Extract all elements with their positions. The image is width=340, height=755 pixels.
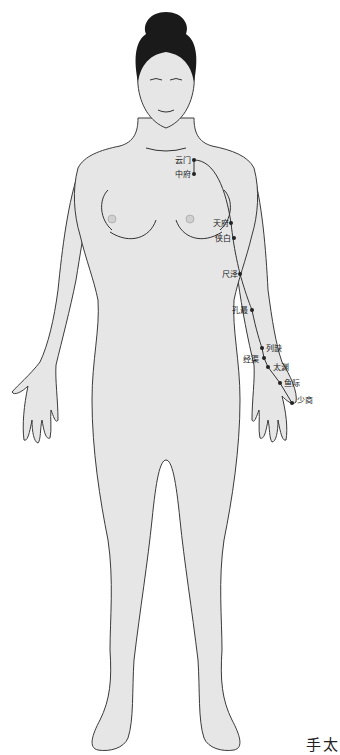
acupoint-dot	[192, 172, 196, 176]
acupoint-label: 尺泽	[222, 270, 238, 279]
acupoint-label: 中府	[175, 170, 191, 179]
acupoint-label: 经渠	[243, 355, 259, 364]
acupoint-dot	[229, 221, 233, 225]
acupoint-dot	[260, 346, 264, 350]
meridian-caption: 手太	[306, 733, 340, 754]
acupoint-dot	[192, 158, 196, 162]
acupoint-label: 天府	[213, 219, 229, 228]
acupoint-dot	[238, 272, 242, 276]
acupoint-dot	[250, 308, 254, 312]
acupoint-dot	[262, 356, 266, 360]
acupoint-dot	[290, 401, 294, 405]
acupoint-label: 列缺	[266, 344, 282, 353]
acupoint-label: 太渊	[273, 363, 289, 372]
acupoint-label: 云门	[175, 156, 191, 165]
acupoint-label: 鱼际	[284, 379, 300, 388]
acupoint-dot	[266, 365, 270, 369]
acupoint-dot	[232, 236, 236, 240]
acupoint-label: 侠白	[215, 234, 231, 243]
acupoint-label: 少商	[297, 396, 313, 405]
acupoint-label: 孔最	[232, 306, 248, 315]
acupoint-dot	[278, 381, 282, 385]
